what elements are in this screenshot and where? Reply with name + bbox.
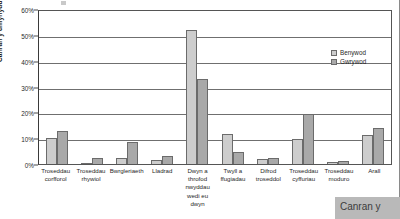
x-axis-label-line: moduro (322, 175, 355, 183)
x-axis-label-line: dwyn (181, 200, 214, 208)
bar-chart: Canran y diffynyddion 0%10%20%30%40%50%6… (0, 0, 400, 219)
legend-label: Benywod (340, 49, 366, 56)
x-axis-category-label: Bwrgleriaeth (109, 167, 145, 208)
x-axis-category-label: Dwyn athrofodnwyddauwedi eudwyn (180, 167, 215, 208)
x-axis-label-line: corfforol (39, 175, 72, 183)
y-axis-tick-label: 50% (21, 32, 34, 39)
y-axis-tick-label: 40% (21, 58, 34, 65)
x-axis-category-label: Lladrad (145, 167, 180, 208)
bar-benywod (257, 159, 268, 164)
x-axis-label-line: Troseddau (74, 167, 107, 175)
y-axis-tick-label: 0% (25, 162, 34, 169)
y-axis-labels: 0%10%20%30%40%50%60% (0, 0, 38, 165)
legend-swatch-icon (331, 50, 337, 56)
x-axis-label-line: rhywiol (74, 175, 107, 183)
legend-label: Gwrywod (340, 58, 366, 65)
bar-benywod (222, 134, 233, 164)
bar-gwrywod (233, 152, 244, 164)
bar-group (285, 11, 320, 164)
x-axis-label-line: Bwrgleriaeth (110, 167, 144, 175)
bar-gwrywod (197, 79, 208, 164)
x-axis-label-line: Difrod (252, 167, 285, 175)
x-axis-label-line: cyffuriau (287, 175, 320, 183)
legend-item: Benywod (331, 49, 366, 56)
x-axis-category-label: Troseddaucyffuriau (286, 167, 321, 208)
x-axis-label-line: Troseddau (322, 167, 355, 175)
y-axis-tick-label: 30% (21, 84, 34, 91)
bars-layer (39, 11, 391, 164)
bar-benywod (116, 158, 127, 164)
bar-group (180, 11, 215, 164)
y-axis-tick-label: 20% (21, 110, 34, 117)
x-axis-label-line: Arall (358, 167, 391, 175)
bar-gwrywod (92, 158, 103, 164)
x-axis-label-line: throfod (181, 175, 214, 183)
bar-group (39, 11, 74, 164)
cropped-overlay-box: Canran y (335, 197, 400, 219)
y-axis-tick-label: 10% (21, 136, 34, 143)
bar-benywod (151, 160, 162, 164)
plot-area: BenywodGwrywod (38, 10, 392, 165)
cropped-overlay-text: Canran y (340, 201, 381, 212)
bar-benywod (362, 135, 373, 164)
bar-group (215, 11, 250, 164)
x-axis-label-line: Lladrad (146, 167, 179, 175)
bar-gwrywod (338, 161, 349, 164)
bar-gwrywod (127, 142, 138, 164)
x-axis-label-line: Dwyn a (181, 167, 214, 175)
legend-swatch-icon (331, 59, 337, 65)
legend-item: Gwrywod (331, 58, 366, 65)
x-axis-label-line: ffugiadau (216, 175, 249, 183)
bar-benywod (81, 163, 92, 164)
bar-gwrywod (57, 131, 68, 164)
bar-benywod (292, 139, 303, 164)
page-artifact-speck (61, 1, 66, 5)
bar-group (250, 11, 285, 164)
bar-gwrywod (303, 114, 314, 164)
x-axis-category-label: Twyll affugiadau (215, 167, 250, 208)
bar-benywod (46, 138, 57, 164)
bar-group (145, 11, 180, 164)
bar-group (74, 11, 109, 164)
x-axis-label-line: Twyll a (216, 167, 249, 175)
x-axis-label-line: Troseddau (39, 167, 72, 175)
x-axis-category-label: Troseddaurhywiol (73, 167, 108, 208)
x-axis-category-label: Difrodtroseddol (251, 167, 286, 208)
x-axis-category-label: Troseddaucorfforol (38, 167, 73, 208)
bar-group (356, 11, 391, 164)
legend: BenywodGwrywod (331, 49, 366, 65)
bar-gwrywod (162, 156, 173, 164)
x-axis-label-line: troseddol (252, 175, 285, 183)
x-axis-label-line: nwyddau (181, 183, 214, 191)
x-axis-label-line: wedi eu (181, 192, 214, 200)
y-axis-tick-label: 60% (21, 7, 34, 14)
bar-group (321, 11, 356, 164)
bar-gwrywod (268, 158, 279, 164)
x-axis-label-line: Troseddau (287, 167, 320, 175)
bar-group (109, 11, 144, 164)
bar-gwrywod (373, 128, 384, 164)
bar-benywod (327, 162, 338, 164)
bar-benywod (186, 30, 197, 164)
